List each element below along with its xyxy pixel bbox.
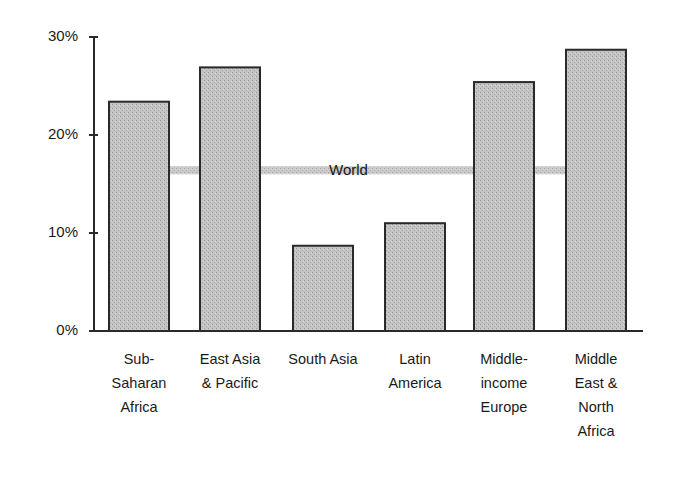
x-category-label: Latin America <box>365 347 465 395</box>
world-line-label: World <box>329 161 368 178</box>
x-category-label: Middle East & North Africa <box>546 347 646 443</box>
y-tick-label: 20% <box>18 125 78 142</box>
y-tick-label: 30% <box>18 27 78 44</box>
bar <box>474 82 534 331</box>
y-tick-label: 0% <box>18 321 78 338</box>
bar-chart: 0%10%20%30%Sub- Saharan AfricaEast Asia … <box>0 0 681 478</box>
y-tick-label: 10% <box>18 223 78 240</box>
bar <box>200 67 260 331</box>
bar <box>566 50 626 331</box>
x-category-label: Middle- income Europe <box>454 347 554 419</box>
bar <box>385 223 445 331</box>
bars-group <box>109 50 626 331</box>
x-category-label: Sub- Saharan Africa <box>89 347 189 419</box>
x-category-label: East Asia & Pacific <box>180 347 280 395</box>
bar <box>109 102 169 331</box>
x-category-label: South Asia <box>273 347 373 371</box>
axes <box>89 37 643 331</box>
bar <box>293 246 353 331</box>
